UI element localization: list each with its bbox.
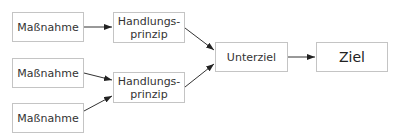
node-label: Maßnahme — [17, 67, 78, 80]
node-massnahme-2: Maßnahme — [12, 58, 84, 88]
node-label-line2: prinzip — [130, 28, 167, 41]
node-label: Ziel — [339, 51, 365, 64]
node-handlungsprinzip-2: Handlungs- prinzip — [113, 72, 185, 103]
arrow-h2-to-unterziel — [185, 64, 214, 87]
arrow-h1-to-unterziel — [185, 28, 214, 50]
node-massnahme-3: Maßnahme — [12, 103, 84, 133]
node-unterziel: Unterziel — [215, 42, 288, 72]
node-label: Unterziel — [227, 51, 276, 64]
node-label-line1: Handlungs- — [118, 15, 181, 28]
arrow-m2-to-h2 — [84, 73, 112, 80]
arrow-m3-to-h2 — [84, 96, 112, 111]
node-ziel: Ziel — [316, 42, 388, 72]
node-label: Maßnahme — [17, 112, 78, 125]
node-label-line2: prinzip — [130, 88, 167, 101]
node-label: Maßnahme — [17, 21, 78, 34]
node-label-line1: Handlungs- — [118, 75, 181, 88]
node-handlungsprinzip-1: Handlungs- prinzip — [113, 12, 185, 43]
node-massnahme-1: Maßnahme — [12, 12, 84, 42]
